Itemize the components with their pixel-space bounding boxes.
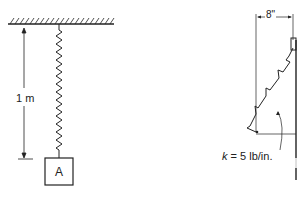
block-a-label: A xyxy=(55,165,63,179)
spring-constant-label: k = 5 lb/in. xyxy=(222,150,272,162)
k-value: = 5 lb/in. xyxy=(228,150,273,162)
width-dimension-label: 8" xyxy=(265,9,276,20)
length-label: 1 m xyxy=(16,92,34,104)
spring-left xyxy=(56,24,62,158)
spring-right xyxy=(247,48,293,132)
diagram-canvas xyxy=(0,0,298,198)
ceiling xyxy=(8,18,114,24)
